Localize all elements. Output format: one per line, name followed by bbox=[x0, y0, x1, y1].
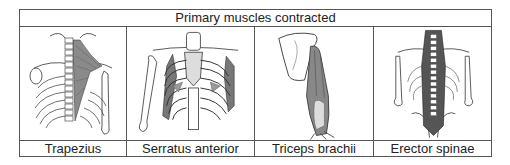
trapezius-back-illustration-icon bbox=[20, 26, 126, 142]
table-title: Primary muscles contracted bbox=[20, 10, 491, 27]
muscle-label: Trapezius bbox=[20, 140, 126, 156]
triceps-arm-illustration-icon bbox=[255, 26, 373, 142]
muscle-label: Erector spinae bbox=[374, 140, 491, 156]
muscles-table: Primary muscles contracted bbox=[19, 9, 492, 157]
muscle-cell-erector-spinae: Erector spinae bbox=[373, 26, 491, 156]
muscle-cell-trapezius: Trapezius bbox=[20, 26, 126, 156]
muscle-cell-triceps-brachii: Triceps brachii bbox=[254, 26, 373, 156]
muscle-label: Triceps brachii bbox=[255, 140, 373, 156]
muscle-label: Serratus anterior bbox=[127, 140, 254, 156]
muscle-cell-serratus-anterior: Serratus anterior bbox=[126, 26, 254, 156]
serratus-ribcage-illustration-icon bbox=[127, 26, 254, 142]
erector-spine-illustration-icon bbox=[374, 26, 491, 142]
